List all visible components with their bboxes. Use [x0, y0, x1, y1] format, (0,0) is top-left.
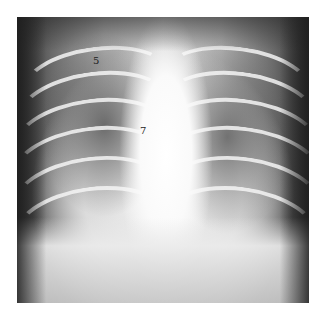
annotation-label-7: 7 — [140, 125, 146, 136]
chest-xray-image — [17, 17, 309, 303]
annotation-label-5: 5 — [93, 55, 99, 66]
edge-shadow — [17, 17, 309, 303]
